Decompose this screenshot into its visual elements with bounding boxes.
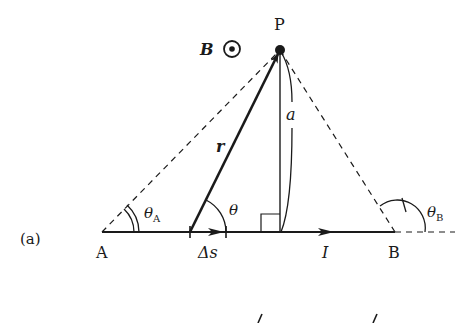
label-delta-s: Δs <box>197 243 218 262</box>
label-b-point: B <box>388 243 400 262</box>
stray-mark-2 <box>373 314 377 323</box>
angle-theta-arc <box>206 200 226 232</box>
right-angle-marker <box>261 214 280 232</box>
label-p: P <box>274 15 285 34</box>
label-theta-b-sub: B <box>436 212 443 223</box>
panel-label: (a) <box>20 230 41 248</box>
label-theta: θ <box>229 201 238 219</box>
line-ap-dashed <box>102 50 280 232</box>
label-r: r <box>216 137 226 156</box>
label-a-point: A <box>95 243 108 262</box>
field-out-of-page-icon <box>224 41 240 57</box>
angle-theta-a-arc-inner <box>124 209 134 232</box>
point-p <box>275 45 285 55</box>
label-current: I <box>321 243 329 262</box>
angle-theta-a-arc-outer <box>127 205 139 232</box>
label-theta-b: θ <box>427 203 436 221</box>
stray-mark-1 <box>258 314 262 323</box>
distance-a-arc-bottom <box>281 128 292 232</box>
line-bp-dashed <box>280 50 395 232</box>
angle-theta-b-tick <box>402 198 406 212</box>
angle-theta-b-arc <box>380 200 425 232</box>
label-theta-a: θ <box>144 204 153 222</box>
biot-savart-diagram: P B r a (a) A Δs I B θ θ A θ B <box>0 0 474 323</box>
label-a: a <box>286 105 296 124</box>
label-field-b: B <box>199 40 214 59</box>
label-theta-a-sub: A <box>152 213 161 224</box>
